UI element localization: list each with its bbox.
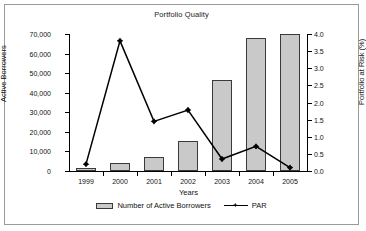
legend-label-bars: Number of Active Borrowers <box>117 201 210 210</box>
y-axis-right-tick-label: 0.0 <box>314 168 324 175</box>
legend-entry-bars: Number of Active Borrowers <box>96 201 210 210</box>
chart-legend: Number of Active Borrowers PAR <box>5 201 358 210</box>
y-axis-right-tick <box>308 137 312 138</box>
y-axis-left-tick-label: 10,000 <box>30 148 51 155</box>
y-axis-left-tick-label: 20,000 <box>30 128 51 135</box>
legend-entry-line: PAR <box>224 201 267 210</box>
y-axis-right-tick-label: 0.5 <box>314 150 324 157</box>
y-axis-left-tick-label: 40,000 <box>30 89 51 96</box>
x-axis-tick-label: 2002 <box>180 178 196 185</box>
y-axis-right-tick <box>308 51 312 52</box>
y-axis-right-tick <box>308 34 312 35</box>
par-polyline <box>86 41 290 168</box>
x-axis-tick <box>205 172 206 176</box>
x-axis-tick-label: 2001 <box>146 178 162 185</box>
x-axis-tick-label: 1999 <box>78 178 94 185</box>
y-axis-right-tick <box>308 154 312 155</box>
y-axis-left-tick-label: 50,000 <box>30 70 51 77</box>
y-axis-left-tick-label: 70,000 <box>30 31 51 38</box>
legend-label-line: PAR <box>252 201 267 210</box>
y-axis-right-tick-label: 1.0 <box>314 133 324 140</box>
y-axis-right-tick <box>308 171 312 172</box>
x-axis-tick <box>137 172 138 176</box>
y-axis-right-tick-label: 1.5 <box>314 116 324 123</box>
chart-title: Portfolio Quality <box>5 10 358 19</box>
x-axis-tick-label: 2000 <box>112 178 128 185</box>
x-axis-tick-label: 2004 <box>248 178 264 185</box>
y-axis-title-left: Active Borrowers <box>0 45 8 102</box>
y-axis-left-tick-label: 0 <box>47 168 51 175</box>
y-axis-right-tick <box>308 68 312 69</box>
y-axis-right-tick <box>308 120 312 121</box>
par-marker <box>83 161 89 167</box>
y-axis-right-tick-label: 3.0 <box>314 65 324 72</box>
x-axis-tick <box>239 172 240 176</box>
y-axis-right-tick-label: 2.5 <box>314 82 324 89</box>
x-axis-tick <box>103 172 104 176</box>
x-axis-tick-label: 2005 <box>282 178 298 185</box>
legend-line-swatch-icon <box>224 202 248 210</box>
y-axis-left-tick-label: 30,000 <box>30 109 51 116</box>
y-axis-right-tick <box>308 103 312 104</box>
legend-bar-swatch-icon <box>96 203 113 209</box>
y-axis-left-tick-label: 60,000 <box>30 50 51 57</box>
par-marker <box>117 38 123 44</box>
y-axis-title-right: Portfolio at Risk (%) <box>357 39 366 105</box>
par-marker <box>151 118 157 124</box>
x-axis-title: Years <box>69 188 308 197</box>
x-axis-tick <box>273 172 274 176</box>
x-axis-tick <box>171 172 172 176</box>
y-axis-right-tick-label: 2.0 <box>314 99 324 106</box>
y-axis-right-tick-label: 4.0 <box>314 31 324 38</box>
x-axis-tick-label: 2003 <box>214 178 230 185</box>
y-axis-right-tick <box>308 85 312 86</box>
par-line-series <box>69 34 308 172</box>
y-axis-right-tick-label: 3.5 <box>314 48 324 55</box>
chart-frame: Portfolio Quality Active Borrowers Portf… <box>4 4 359 225</box>
